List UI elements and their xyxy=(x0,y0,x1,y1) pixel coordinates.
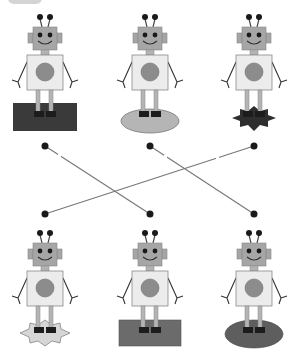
dark-star-base xyxy=(232,106,276,131)
dark-rectangle-base xyxy=(13,103,77,131)
robot-bottom-2[interactable] xyxy=(117,230,183,346)
robot-top-1[interactable] xyxy=(12,14,78,131)
gray-rectangle-base xyxy=(119,320,181,346)
robot-top-2[interactable] xyxy=(117,14,183,133)
gray-oval-base xyxy=(225,320,283,348)
light-star-base xyxy=(20,320,70,346)
robot-top-3[interactable] xyxy=(221,14,287,131)
dot-top-3[interactable] xyxy=(251,143,258,150)
dot-bottom-3[interactable] xyxy=(251,211,258,218)
robot-bottom-1[interactable] xyxy=(12,230,78,346)
matching-worksheet xyxy=(0,0,301,361)
dot-bottom-2[interactable] xyxy=(147,211,154,218)
line-top3-bottom1[interactable] xyxy=(45,146,254,214)
dot-top-2[interactable] xyxy=(147,143,154,150)
dot-top-1[interactable] xyxy=(42,143,49,150)
robot-bottom-3[interactable] xyxy=(221,230,287,348)
dot-bottom-1[interactable] xyxy=(42,211,49,218)
light-oval-base xyxy=(121,109,179,133)
connection-lines xyxy=(45,146,254,214)
